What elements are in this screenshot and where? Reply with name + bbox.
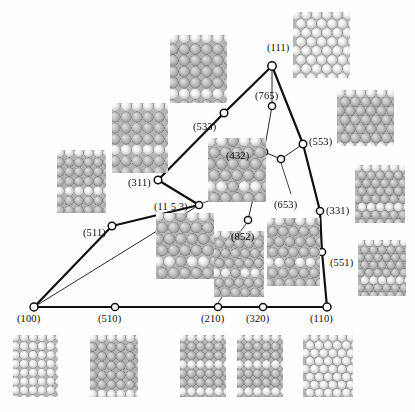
label-320: (320) [246,314,269,325]
model-510-bottom [90,335,138,397]
label-511: (511) [83,228,106,239]
model-100-bottom-canvas [13,335,58,397]
model-110-bottom [303,335,353,397]
model-331 [355,165,405,223]
node-110[interactable] [323,303,331,311]
model-653-canvas [267,218,320,286]
model-110-bottom-canvas [303,335,353,397]
edge-331-553 [303,144,320,211]
node-653[interactable] [277,155,284,162]
node-765[interactable] [268,102,275,109]
model-432 [208,138,266,202]
model-533-canvas [170,35,227,103]
node-100[interactable] [30,303,38,311]
model-432-canvas [208,138,266,202]
node-533[interactable] [220,109,228,117]
model-111 [293,12,350,78]
model-331-canvas [355,165,405,223]
model-11-5-3 [156,213,214,279]
model-311-canvas [112,103,168,173]
label-852: (852) [231,232,254,243]
label-331: (331) [326,206,349,217]
label-765: (765) [255,91,278,102]
model-653 [267,218,320,286]
leader-653 [281,163,291,194]
model-551-canvas [358,240,406,296]
node-852[interactable] [244,216,251,223]
edge-110-551 [322,252,327,307]
model-511 [57,150,106,213]
label-432: (432) [226,151,249,162]
node-311[interactable] [154,176,162,184]
model-100-bottom [13,335,58,397]
label-311: (311) [128,178,151,189]
label-551: (551) [330,258,353,269]
model-320-bottom-canvas [237,335,283,397]
node-553[interactable] [299,140,307,148]
model-553-canvas [337,90,394,146]
node-1153[interactable] [195,201,202,208]
model-210-bottom [180,335,226,397]
model-311 [112,103,168,173]
model-210-bottom-canvas [180,335,226,397]
node-210[interactable] [214,303,221,310]
node-331[interactable] [316,207,323,214]
model-533 [170,35,227,103]
label-1153: (11 5 3) [154,202,188,213]
label-210: (210) [201,314,224,325]
model-11-5-3-canvas [156,213,214,279]
stereographic-triangle-figure: (100)(510)(210)(320)(110)(551)(331)(553)… [0,0,415,412]
node-510[interactable] [111,303,118,310]
model-511-canvas [57,150,106,213]
model-320-bottom [237,335,283,397]
model-510-bottom-canvas [90,335,138,397]
node-111[interactable] [268,62,276,70]
label-653: (653) [274,200,297,211]
label-510: (510) [98,314,121,325]
label-111: (111) [267,43,289,54]
node-320[interactable] [259,303,266,310]
label-533: (533) [193,122,216,133]
label-553: (553) [309,137,332,148]
node-511[interactable] [108,222,116,230]
label-110: (110) [310,314,333,325]
model-551 [358,240,406,296]
model-553 [337,90,394,146]
edge-551-331 [320,211,322,252]
label-100: (100) [17,314,40,325]
model-111-canvas [293,12,350,78]
